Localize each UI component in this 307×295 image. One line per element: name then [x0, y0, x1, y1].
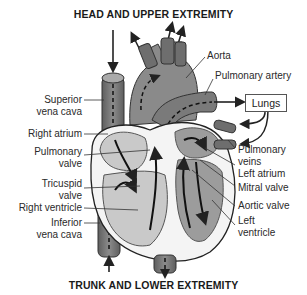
- label-pulmonary-valve: Pulmonary valve: [34, 146, 82, 170]
- label-aorta: Aorta: [207, 50, 231, 62]
- label-pulmonary-artery: Pulmonary artery: [215, 70, 291, 82]
- label-inferior-vena-cava: Inferior vena cava: [36, 217, 82, 241]
- label-left-ventricle: Left ventricle: [238, 215, 275, 239]
- label-left-atrium: Left atrium: [238, 168, 285, 180]
- label-superior-vena-cava: Superior vena cava: [36, 94, 82, 118]
- label-pulmonary-veins: Pulmonary veins: [238, 144, 286, 168]
- label-right-ventricle: Right ventricle: [19, 202, 82, 214]
- label-aortic-valve: Aortic valve: [238, 200, 290, 212]
- label-mitral-valve: Mitral valve: [238, 182, 289, 194]
- lungs-box: Lungs: [245, 94, 287, 112]
- label-right-atrium: Right atrium: [28, 128, 82, 140]
- label-tricuspid-valve: Tricuspid valve: [42, 178, 82, 202]
